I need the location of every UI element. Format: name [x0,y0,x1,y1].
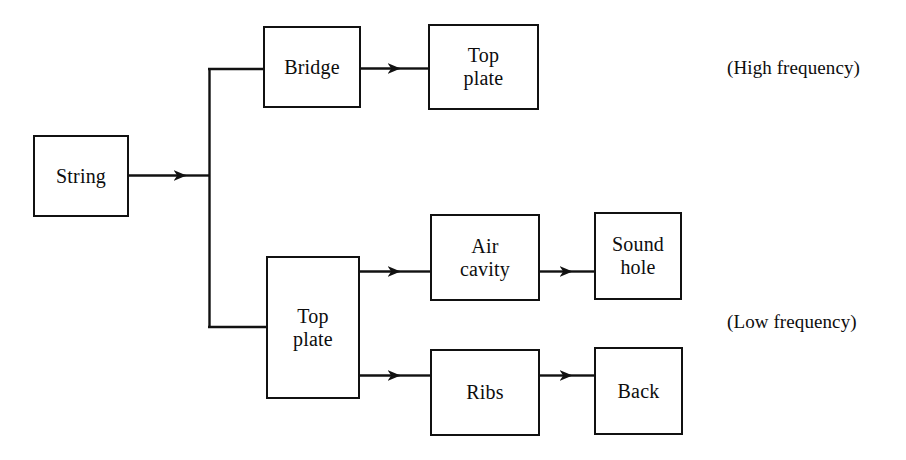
node-bridge: Bridge [263,26,361,108]
annotation-low-frequency: (Low frequency) [727,311,857,333]
node-air-cavity: Air cavity [430,214,540,301]
node-ribs: Ribs [430,349,540,436]
block-diagram: String Bridge Top plate Top plate Air ca… [0,0,906,460]
node-string: String [33,135,129,217]
annotation-high-frequency: (High frequency) [727,57,860,79]
node-top-plate-low-frequency: Top plate [266,256,360,399]
node-sound-hole: Sound hole [594,212,682,300]
node-top-plate-high-frequency: Top plate [428,24,539,110]
node-back: Back [594,347,683,435]
